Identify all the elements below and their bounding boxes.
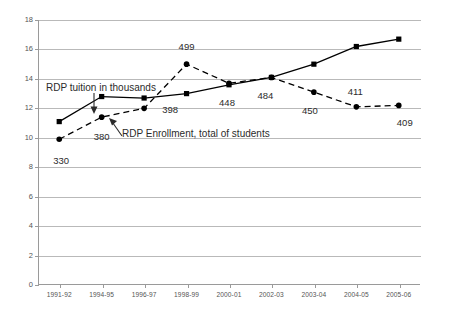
data-point-marker	[269, 75, 275, 81]
series-line-1	[59, 39, 399, 121]
data-point-marker	[56, 136, 62, 142]
data-point-label: 330	[53, 157, 69, 167]
data-point-marker	[226, 81, 232, 87]
x-axis-tick-label: 1996-97	[132, 291, 157, 298]
data-point-label: 398	[162, 106, 178, 116]
data-point-label: 411	[348, 87, 363, 97]
data-point-marker	[311, 89, 317, 95]
annotation-tuition: RDP tuition in thousands	[46, 83, 156, 93]
data-point-label: 484	[258, 92, 274, 102]
data-point-marker	[142, 95, 147, 100]
data-point-label: 409	[397, 119, 413, 129]
x-axis-tick-label: 2004-05	[344, 291, 369, 298]
data-point-marker	[99, 114, 105, 120]
y-axis-tick-label: 16	[25, 46, 33, 54]
data-point-marker	[396, 37, 401, 42]
data-point-marker	[354, 104, 360, 110]
data-point-label: 380	[94, 132, 110, 142]
y-axis-tick-label: 4	[29, 222, 33, 230]
chart-container: 024681012141618 RDP tuition in thousands…	[0, 0, 462, 322]
data-point-marker	[141, 106, 147, 112]
y-axis-tick-label: 6	[29, 193, 33, 201]
data-point-marker	[354, 44, 359, 49]
data-point-marker	[396, 103, 402, 109]
arrow-down-icon	[86, 93, 102, 115]
data-point-label: 499	[179, 42, 195, 52]
x-axis-tick-label: 1994-95	[89, 291, 114, 298]
data-point-label: 450	[302, 106, 318, 116]
annotation-enrollment: RDP Enrollment, total of students	[122, 129, 270, 139]
y-axis-tick-label: 2	[29, 252, 33, 260]
y-axis-tick-label: 12	[25, 105, 33, 113]
x-axis-tick-label: 2005-06	[386, 291, 411, 298]
data-point-marker	[184, 61, 190, 67]
y-tick-mark	[35, 285, 39, 286]
x-axis-tick-label: 2002-03	[259, 291, 284, 298]
x-axis-tick-label: 1998-99	[174, 291, 199, 298]
series-layer	[38, 20, 420, 285]
data-point-marker	[57, 119, 62, 124]
x-axis-tick-label: 1991-92	[47, 291, 72, 298]
x-axis-tick-label: 2003-04	[301, 291, 326, 298]
data-point-marker	[311, 62, 316, 67]
arrow-up-left-icon	[108, 118, 126, 138]
data-point-label: 448	[219, 99, 235, 109]
x-axis-tick-label: 2000-01	[217, 291, 242, 298]
y-axis-tick-label: 10	[25, 134, 33, 142]
y-axis-tick-label: 8	[29, 163, 33, 171]
data-point-marker	[184, 91, 189, 96]
y-axis-tick-label: 14	[25, 75, 33, 83]
y-axis-tick-label: 0	[29, 281, 33, 289]
y-axis-tick-label: 18	[25, 16, 33, 24]
